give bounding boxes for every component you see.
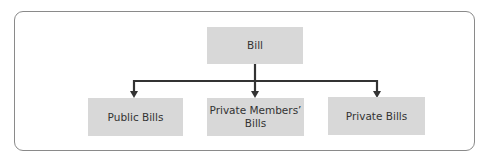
node-label: Bill — [247, 39, 263, 52]
node-label: Private Bills — [346, 110, 407, 123]
arrow-down-icon — [251, 91, 259, 98]
arrow-down-icon — [130, 91, 138, 98]
node-bill: Bill — [207, 27, 303, 64]
node-private-members-bills: Private Members’ Bills — [207, 98, 304, 136]
node-label: Public Bills — [108, 111, 164, 124]
node-public-bills: Public Bills — [88, 98, 183, 136]
node-label-line2: Bills — [245, 117, 266, 130]
node-label-line1: Private Members’ — [210, 104, 302, 117]
node-private-bills: Private Bills — [328, 97, 425, 135]
